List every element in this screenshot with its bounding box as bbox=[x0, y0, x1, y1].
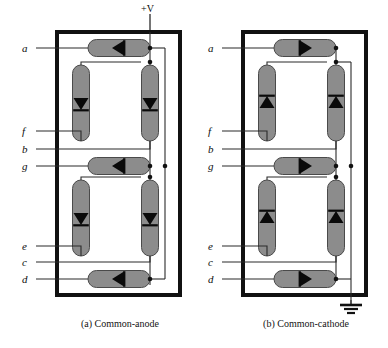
pin-label-a-d: d bbox=[22, 273, 28, 285]
pin-label-a-e: e bbox=[22, 240, 27, 252]
segment-g-panel-a bbox=[36, 158, 150, 175]
ground-symbol-b bbox=[340, 300, 362, 313]
pin-label-a-f: f bbox=[22, 125, 27, 137]
panel-common-anode: +V bbox=[22, 3, 180, 295]
pin-label-a-c: c bbox=[22, 256, 27, 268]
segment-a-panel-b bbox=[222, 40, 336, 57]
segment-e-panel-b bbox=[222, 177, 327, 256]
segment-g-panel-b bbox=[222, 158, 336, 175]
pin-label-a-g: g bbox=[22, 160, 28, 172]
segment-e-panel-a bbox=[36, 177, 141, 256]
caption-common-cathode: (b) Common-cathode bbox=[232, 318, 380, 329]
caption-common-anode: (a) Common-anode bbox=[46, 318, 194, 329]
pin-label-b-g: g bbox=[208, 160, 214, 172]
pin-label-b-e: e bbox=[208, 240, 213, 252]
pin-label-b-d: d bbox=[208, 273, 214, 285]
segment-b-panel-a bbox=[36, 65, 159, 149]
pin-label-b-f: f bbox=[208, 125, 213, 137]
segment-c-panel-b bbox=[222, 180, 345, 262]
panel-common-cathode: a f b g e c d bbox=[208, 32, 366, 313]
circuit-diagram-svg: +V bbox=[0, 0, 388, 348]
pin-label-a-b: b bbox=[22, 143, 28, 155]
segment-b-panel-b bbox=[222, 65, 345, 149]
pin-label-b-b: b bbox=[208, 143, 214, 155]
pin-label-b-a: a bbox=[208, 42, 214, 54]
supply-node-a: +V bbox=[141, 3, 155, 32]
pin-label-a-a: a bbox=[22, 42, 28, 54]
segment-f-panel-b bbox=[222, 62, 327, 141]
seven-segment-display-figure: +V bbox=[0, 0, 388, 348]
segment-a-panel-a bbox=[36, 40, 150, 57]
segment-c-panel-a bbox=[36, 180, 159, 262]
segment-f-panel-a bbox=[36, 62, 141, 141]
segment-d-panel-a bbox=[36, 271, 150, 288]
pin-labels-a: a f b g e c d bbox=[22, 42, 28, 285]
pin-label-b-c: c bbox=[208, 256, 213, 268]
pin-labels-b: a f b g e c d bbox=[208, 42, 214, 285]
supply-label-a: +V bbox=[141, 3, 155, 14]
segment-d-panel-b bbox=[222, 271, 336, 288]
